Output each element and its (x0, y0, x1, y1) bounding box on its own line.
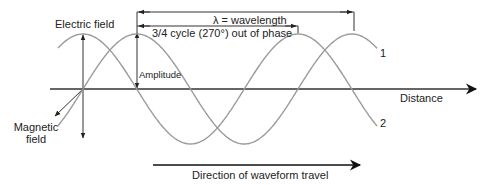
electric-field-label: Electric field (55, 18, 114, 30)
direction-label: Direction of waveform travel (192, 169, 328, 181)
amplitude-label: Amplitude (139, 69, 181, 81)
distance-label: Distance (400, 92, 443, 104)
wavelength-label: λ = wavelength (213, 14, 287, 26)
magnetic-field-label-line2: field (12, 133, 60, 145)
wave-2-label: 2 (380, 117, 386, 129)
magnetic-field-label: Magnetic field (12, 121, 60, 145)
phase-label: 3/4 cycle (270°) out of phase (152, 27, 292, 39)
magnetic-field-label-line1: Magnetic (12, 121, 60, 133)
wave-1-label: 1 (380, 47, 386, 59)
